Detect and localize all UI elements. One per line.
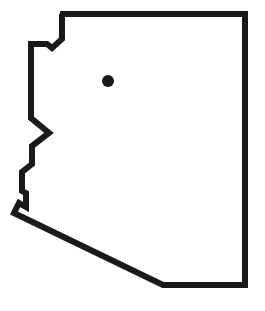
location-marker-dot bbox=[102, 75, 114, 87]
state-outline bbox=[14, 14, 245, 285]
state-map bbox=[0, 0, 265, 311]
